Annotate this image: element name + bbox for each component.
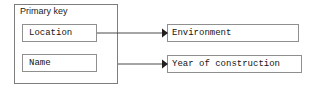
- primary-key-group-label: Primary key: [20, 6, 68, 17]
- target-box-year-of-construction[interactable]: Year of construction: [167, 55, 302, 73]
- target-box-environment[interactable]: Environment: [167, 24, 299, 42]
- diagram-canvas: Primary key Location Name Environment Ye…: [0, 0, 311, 93]
- field-box-location[interactable]: Location: [22, 24, 97, 42]
- field-box-name[interactable]: Name: [22, 54, 97, 72]
- connector-name-to-year: [118, 60, 168, 69]
